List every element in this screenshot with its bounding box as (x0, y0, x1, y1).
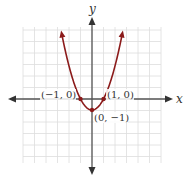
x-axis (8, 96, 173, 103)
label-point-neg1-0: (−1, 0) (41, 89, 76, 100)
y-axis-down-arrow-icon (89, 167, 96, 175)
coordinate-plane: x y (−1, 0) (1, 0) (0, −1) (0, 0, 188, 178)
y-axis-up-arrow-icon (89, 17, 96, 25)
x-axis-left-arrow-icon (8, 96, 16, 103)
x-axis-right-arrow-icon (165, 96, 173, 103)
y-axis (89, 17, 96, 175)
point-1-0 (101, 97, 105, 101)
x-axis-label: x (176, 92, 183, 106)
label-point-1-0: (1, 0) (107, 89, 134, 100)
label-vertex: (0, −1) (94, 112, 129, 123)
point-neg1-0 (78, 97, 82, 101)
graph-figure: x y (−1, 0) (1, 0) (0, −1) (0, 0, 188, 178)
curve-right-arrow-icon (119, 31, 125, 38)
y-axis-label: y (88, 2, 96, 16)
curve-left-arrow-icon (60, 31, 66, 38)
